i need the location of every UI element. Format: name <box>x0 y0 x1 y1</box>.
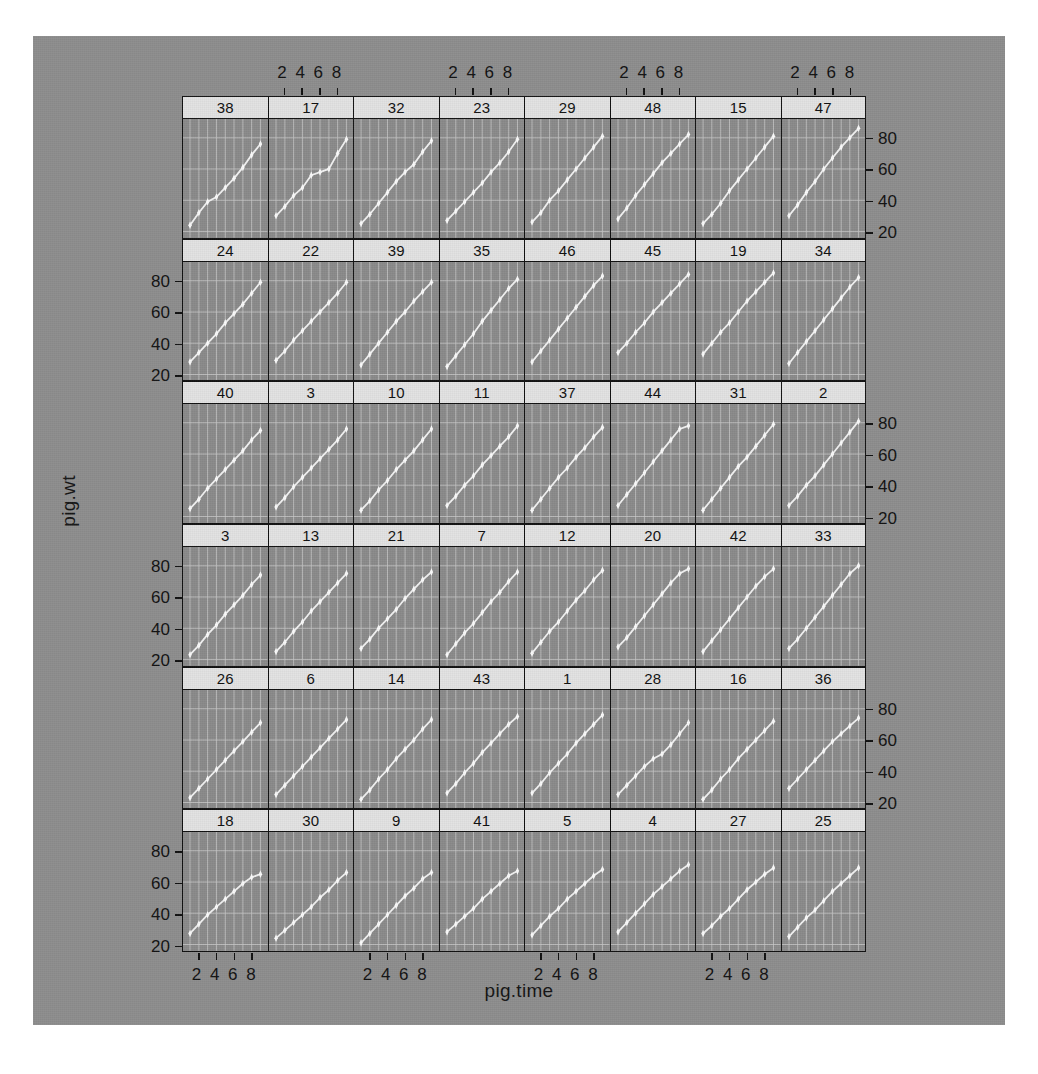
data-point <box>660 750 663 758</box>
panel-plot <box>440 262 525 381</box>
data-point <box>677 868 680 876</box>
x-axis-tick-top <box>284 88 286 95</box>
data-panel <box>695 119 781 239</box>
trellis-panel-cell: 40 <box>182 381 268 524</box>
data-point <box>283 927 286 935</box>
trellis-panel-cell: 5 <box>524 809 610 952</box>
panel-strip-header: 43 <box>439 667 525 690</box>
data-point <box>403 892 406 900</box>
data-point <box>710 922 713 930</box>
data-panel <box>439 832 525 952</box>
trellis-panel-cell: 36 <box>781 667 867 810</box>
trellis-panel-cell: 7 <box>439 524 525 667</box>
x-axis-tick-bottom <box>576 953 578 960</box>
data-panel <box>182 404 268 524</box>
panel-strip-header: 4 <box>610 809 696 832</box>
data-point <box>359 645 362 653</box>
data-point <box>318 598 321 606</box>
data-panel <box>182 832 268 952</box>
trellis-row: 3817322329481547 <box>182 96 866 239</box>
trellis-panel-cell: 47 <box>781 96 867 239</box>
data-panel <box>610 262 696 382</box>
data-point <box>616 643 619 651</box>
panel-strip-label: 18 <box>217 813 234 828</box>
data-point <box>848 722 851 730</box>
trellis-panel-cell: 29 <box>524 96 610 239</box>
data-panel <box>610 690 696 810</box>
panel-strip-label: 12 <box>559 528 576 543</box>
data-point <box>454 207 457 215</box>
panel-plot <box>440 119 525 238</box>
data-point <box>215 765 218 773</box>
data-panel <box>781 262 867 382</box>
data-point <box>300 911 303 919</box>
panel-strip-header: 12 <box>524 524 610 547</box>
data-panel <box>439 690 525 810</box>
plot-canvas: pig.wt pig.time 381732232948154724223935… <box>33 36 1005 1025</box>
data-point <box>574 888 577 896</box>
data-point <box>359 507 362 515</box>
panel-strip-header: 33 <box>781 524 867 547</box>
x-axis-tick-bottom <box>234 953 236 960</box>
panel-plot <box>269 262 354 381</box>
data-point <box>633 772 636 780</box>
trellis-panel-cell: 12 <box>524 524 610 667</box>
data-point <box>224 756 227 764</box>
data-panel <box>439 119 525 239</box>
y-axis-tick-right <box>866 201 873 203</box>
y-axis-tick-left <box>175 281 182 283</box>
data-point <box>274 648 277 656</box>
data-panel <box>695 690 781 810</box>
data-point <box>795 775 798 783</box>
data-panel <box>524 690 610 810</box>
panel-strip-header: 3 <box>268 381 354 404</box>
trellis-panel-cell: 1 <box>524 667 610 810</box>
data-point <box>471 189 474 197</box>
panel-gridlines <box>354 690 439 809</box>
panel-plot <box>611 119 696 238</box>
panel-gridlines <box>525 547 610 666</box>
panel-strip-label: 26 <box>217 671 234 686</box>
data-point <box>660 298 663 306</box>
data-point <box>309 465 312 473</box>
data-point <box>259 871 262 879</box>
panel-strip-label: 29 <box>559 100 576 115</box>
trellis-panel-cell: 31 <box>695 381 781 524</box>
trellis-panel-cell: 14 <box>353 667 439 810</box>
x-axis-tick-top <box>337 88 339 95</box>
x-axis-tick-bottom <box>540 953 542 960</box>
x-axis-tick-label-top: 2 4 6 8 <box>790 64 856 81</box>
panel-strip-label: 14 <box>388 671 405 686</box>
data-point <box>592 872 595 880</box>
x-axis-tick-top <box>679 88 681 95</box>
trellis-panel-grid: 3817322329481547242239354645193440310113… <box>182 96 866 952</box>
panel-strip-label: 42 <box>730 528 747 543</box>
panel-strip-label: 15 <box>730 100 747 115</box>
panel-strip-header: 16 <box>695 667 781 690</box>
panel-strip-label: 5 <box>563 813 572 828</box>
panel-strip-label: 47 <box>815 100 832 115</box>
panel-plot <box>183 832 268 951</box>
data-point <box>745 745 748 753</box>
x-axis-tick-bottom <box>593 953 595 960</box>
panel-plot <box>183 119 268 238</box>
data-point <box>188 358 191 366</box>
trellis-panel-cell: 18 <box>182 809 268 952</box>
data-point <box>232 888 235 896</box>
data-point <box>795 924 798 932</box>
panel-strip-header: 25 <box>781 809 867 832</box>
data-point <box>616 790 619 798</box>
x-axis-tick-top <box>319 88 321 95</box>
panel-strip-header: 41 <box>439 809 525 832</box>
x-axis-tick-label-bottom: 2 4 6 8 <box>705 966 771 983</box>
panel-plot <box>269 119 354 238</box>
data-point <box>625 781 628 789</box>
x-axis-tick-top <box>643 88 645 95</box>
data-point <box>197 784 200 792</box>
panel-strip-label: 1 <box>563 671 572 686</box>
panel-strip-header: 38 <box>182 96 268 119</box>
data-point <box>601 272 604 280</box>
y-axis-tick-label: 60 <box>878 161 897 178</box>
data-point <box>677 570 680 578</box>
data-point <box>274 935 277 943</box>
